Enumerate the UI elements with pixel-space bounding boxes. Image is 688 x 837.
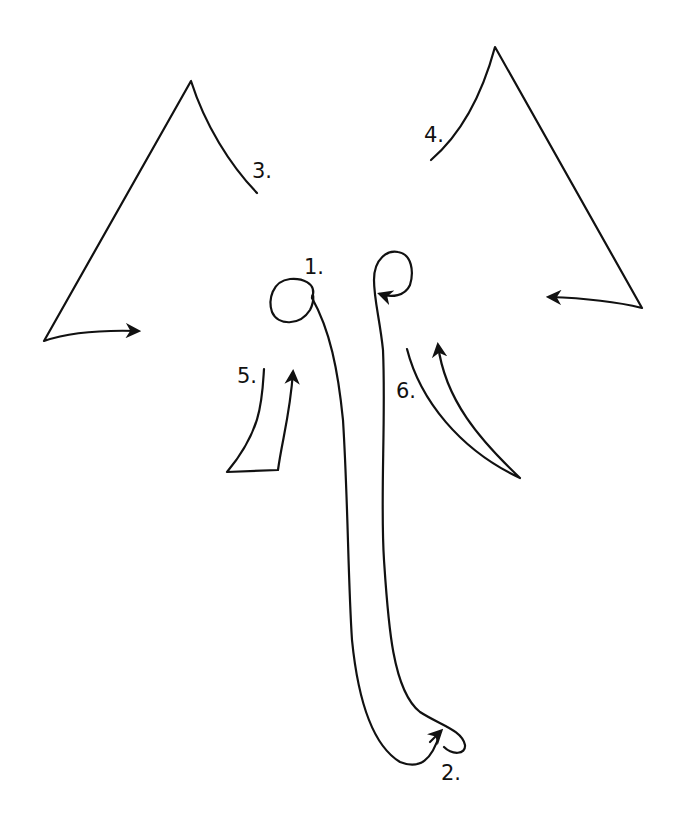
step-label-1: 1. bbox=[304, 255, 324, 279]
left-ear-stroke bbox=[44, 81, 257, 341]
right-ear-stroke bbox=[431, 47, 642, 308]
trunk-stroke bbox=[271, 252, 465, 765]
right-tusk-stroke bbox=[407, 345, 520, 478]
elephant-drawing-diagram: 1. 2. 3. 4. 5. 6. bbox=[0, 0, 688, 837]
step-label-3: 3. bbox=[252, 159, 272, 183]
step-label-2: 2. bbox=[441, 761, 461, 785]
step-label-5: 5. bbox=[237, 364, 257, 388]
step-label-6: 6. bbox=[396, 379, 416, 403]
step-label-4: 4. bbox=[424, 123, 444, 147]
